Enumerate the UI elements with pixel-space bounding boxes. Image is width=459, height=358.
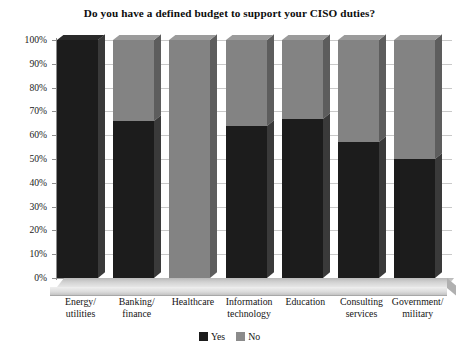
bar-segment-face bbox=[338, 142, 379, 278]
bar-segment-top bbox=[113, 35, 160, 40]
bar-segment-side bbox=[267, 34, 274, 126]
bar-segment-side bbox=[323, 34, 330, 118]
bar-segment-top bbox=[394, 35, 441, 40]
bar-segment-face bbox=[226, 126, 267, 278]
bar-segment-side bbox=[267, 120, 274, 278]
bar-segment-face bbox=[338, 40, 379, 142]
bar-segment-face bbox=[226, 40, 267, 126]
bar-segment-no[interactable] bbox=[394, 40, 435, 159]
bar-segment-face bbox=[394, 40, 435, 159]
bar-column[interactable] bbox=[282, 40, 323, 278]
bar-segment-no[interactable] bbox=[113, 40, 154, 121]
bar-segment-side bbox=[210, 34, 217, 278]
bar-column[interactable] bbox=[113, 40, 154, 278]
bar-segment-top bbox=[226, 35, 273, 40]
bar-segment-yes[interactable] bbox=[338, 142, 379, 278]
bar-segment-face bbox=[282, 119, 323, 278]
bar-column[interactable] bbox=[226, 40, 267, 278]
bar-segment-face bbox=[169, 40, 210, 278]
bar-segment-yes[interactable] bbox=[394, 159, 435, 278]
bar-segment-side bbox=[435, 153, 442, 278]
chart-container: Do you have a defined budget to support … bbox=[0, 0, 459, 358]
chart-legend: YesNo bbox=[0, 331, 459, 342]
legend-label: No bbox=[248, 331, 260, 342]
bar-segment-yes[interactable] bbox=[282, 119, 323, 278]
bar-segment-face bbox=[113, 40, 154, 121]
x-axis-category-label-line: military bbox=[384, 308, 452, 320]
bar-segment-top bbox=[57, 35, 104, 40]
legend-item-no[interactable]: No bbox=[236, 331, 260, 342]
bar-segment-yes[interactable] bbox=[57, 40, 98, 278]
legend-swatch-icon bbox=[236, 332, 245, 341]
bar-segment-face bbox=[57, 40, 98, 278]
bar-segment-top bbox=[338, 35, 385, 40]
bar-segment-side bbox=[154, 115, 161, 278]
bar-segment-side bbox=[323, 113, 330, 278]
bar-segment-face bbox=[394, 159, 435, 278]
legend-swatch-icon bbox=[199, 332, 208, 341]
legend-item-yes[interactable]: Yes bbox=[199, 331, 225, 342]
legend-label: Yes bbox=[211, 331, 225, 342]
bar-segment-no[interactable] bbox=[169, 40, 210, 278]
bar-column[interactable] bbox=[57, 40, 98, 278]
bar-segment-no[interactable] bbox=[338, 40, 379, 142]
x-axis-category-label-line: finance bbox=[103, 308, 171, 320]
bar-segment-face bbox=[282, 40, 323, 119]
x-axis-category-label-line: technology bbox=[215, 308, 283, 320]
bar-segment-side bbox=[98, 34, 105, 278]
x-axis-category-label: Government/military bbox=[384, 296, 452, 321]
bar-segment-side bbox=[379, 136, 386, 278]
bar-segment-side bbox=[379, 34, 386, 142]
bar-segment-top bbox=[169, 35, 216, 40]
bar-segment-no[interactable] bbox=[282, 40, 323, 119]
x-axis-category-label-line: Government/ bbox=[384, 296, 452, 308]
bar-segment-yes[interactable] bbox=[226, 126, 267, 278]
bar-segment-no[interactable] bbox=[226, 40, 267, 126]
bar-segment-face bbox=[113, 121, 154, 278]
bar-column[interactable] bbox=[338, 40, 379, 278]
bar-segment-top bbox=[282, 35, 329, 40]
bar-column[interactable] bbox=[169, 40, 210, 278]
bar-segment-side bbox=[435, 34, 442, 159]
bar-column[interactable] bbox=[394, 40, 435, 278]
bar-segment-yes[interactable] bbox=[113, 121, 154, 278]
bar-segment-side bbox=[154, 34, 161, 121]
